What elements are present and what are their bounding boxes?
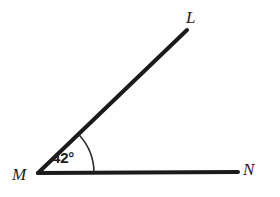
angle-figure-svg	[0, 0, 280, 197]
angle-measure-label: 42°	[52, 150, 74, 165]
point-label-L: L	[186, 9, 195, 26]
ray-MN	[38, 172, 238, 173]
geometry-diagram: M L N 42°	[0, 0, 280, 197]
point-label-N: N	[243, 161, 254, 178]
vertex-label-M: M	[12, 166, 26, 183]
angle-arc-LMN	[80, 136, 94, 173]
